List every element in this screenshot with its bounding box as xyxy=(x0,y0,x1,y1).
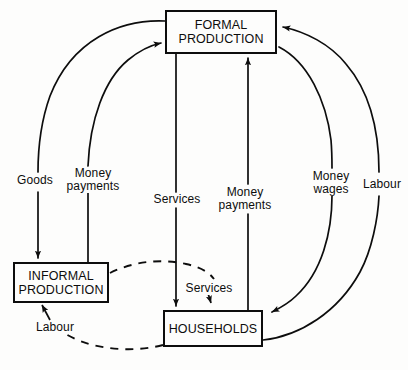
edge-label-labour-informal-line-1: Labour xyxy=(30,321,80,334)
edge-services-informal-path xyxy=(110,261,214,279)
edge-label-goods: Goods xyxy=(11,174,59,187)
node-informal-production-line-1: INFORMAL xyxy=(28,269,93,283)
node-formal-production-line-1: FORMAL xyxy=(195,18,248,32)
edge-label-services-informal-line-1: Services xyxy=(183,282,235,295)
node-households[interactable]: HOUSEHOLDS xyxy=(163,310,263,347)
edge-label-services-informal: Services xyxy=(182,282,236,295)
edge-money-wages-upper xyxy=(279,47,332,168)
edge-label-services-formal-line-1: Services xyxy=(150,193,204,206)
edge-label-money-wages: Money wages xyxy=(306,170,356,196)
edge-money-wages-lower xyxy=(272,196,332,312)
edge-label-labour-formal: Labour xyxy=(356,178,408,191)
edge-label-goods-line-1: Goods xyxy=(12,174,58,187)
node-informal-production[interactable]: INFORMAL PRODUCTION xyxy=(13,262,109,303)
node-formal-production[interactable]: FORMAL PRODUCTION xyxy=(165,10,277,54)
edge-money-payments-informal-path xyxy=(88,43,161,166)
edge-labour-formal-lower xyxy=(263,196,379,340)
edge-label-labour-formal-line-1: Labour xyxy=(357,178,407,191)
diagram-canvas: FORMAL PRODUCTION INFORMAL PRODUCTION HO… xyxy=(0,0,408,370)
edge-label-money-payments-households: Money payments xyxy=(212,186,278,212)
edge-label-money-payments-informal: Money payments xyxy=(60,167,126,193)
edge-label-money-payments-informal-line-2: payments xyxy=(61,180,125,193)
edge-goods-path xyxy=(38,21,165,172)
node-formal-production-line-2: PRODUCTION xyxy=(178,32,263,46)
node-informal-production-line-2: PRODUCTION xyxy=(18,283,103,297)
edge-label-money-wages-line-2: wages xyxy=(307,183,355,196)
edge-label-money-payments-households-line-2: payments xyxy=(213,199,277,212)
edge-label-services-formal: Services xyxy=(149,193,205,206)
node-households-line-1: HOUSEHOLDS xyxy=(169,322,258,336)
edge-labour-informal-arrow xyxy=(42,305,50,320)
edge-label-labour-informal: Labour xyxy=(29,321,81,334)
